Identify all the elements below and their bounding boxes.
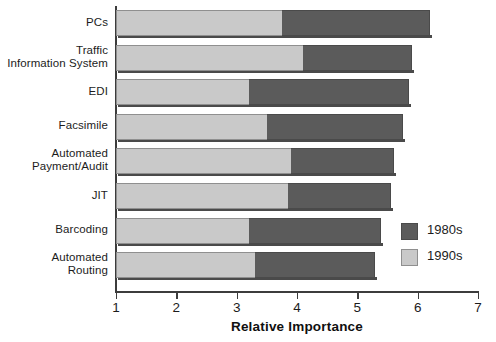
category-label: TrafficInformation System [0,44,108,70]
category-label: PCs [0,16,108,29]
bar-segment-1990s[interactable] [116,45,303,71]
plot-area [116,0,478,288]
category-label-line: Payment/Audit [0,160,108,173]
bar-segment-1990s[interactable] [116,252,255,278]
bar-segment-1990s[interactable] [116,218,249,244]
category-label: Barcoding [0,223,108,236]
category-label-line: Routing [0,264,108,277]
category-label-line: Facsimile [0,119,108,132]
x-axis-tick [418,292,419,299]
bar-group [116,79,409,105]
x-axis-tick [116,292,117,299]
legend-swatch-1990s-icon [401,249,418,266]
x-axis-title: Relative Importance [116,319,478,334]
category-label: AutomatedRouting [0,251,108,277]
category-label-line: JIT [0,189,108,202]
bar-segment-1990s[interactable] [116,10,282,36]
category-label: Facsimile [0,119,108,132]
x-axis-tick-label: 4 [284,300,310,315]
x-axis-tick [237,292,238,299]
x-axis-tick-label: 1 [103,300,129,315]
category-label-line: Automated [0,251,108,264]
x-axis-tick-label: 6 [405,300,431,315]
legend-label-1990s: 1990s [427,248,462,263]
bar-group [116,114,403,140]
category-label-line: EDI [0,85,108,98]
category-label: JIT [0,189,108,202]
bar-group [116,218,381,244]
bar-group [116,45,412,71]
category-label: EDI [0,85,108,98]
x-axis-tick [297,292,298,299]
x-axis-tick [357,292,358,299]
x-axis-tick-label: 7 [465,300,491,315]
category-label-line: Information System [0,57,108,70]
category-label-line: Traffic [0,44,108,57]
bar-segment-1990s[interactable] [116,114,267,140]
bar-group [116,10,430,36]
bar-segment-1990s[interactable] [116,79,249,105]
x-axis-tick [478,292,479,299]
x-axis-tick-label: 2 [163,300,189,315]
bar-segment-1990s[interactable] [116,148,291,174]
category-axis-labels: PCsTrafficInformation SystemEDIFacsimile… [0,0,112,288]
category-label: AutomatedPayment/Audit [0,147,108,173]
x-axis-tick [176,292,177,299]
bar-group [116,183,391,209]
x-axis-tick-label: 5 [344,300,370,315]
category-label-line: Automated [0,147,108,160]
bar-group [116,148,394,174]
legend-label-1980s: 1980s [427,222,462,237]
legend-swatch-1980s-icon [401,223,418,240]
category-label-line: Barcoding [0,223,108,236]
bar-segment-1990s[interactable] [116,183,288,209]
category-label-line: PCs [0,16,108,29]
x-axis-tick-label: 3 [224,300,250,315]
bar-group [116,252,375,278]
relative-importance-bar-chart: PCsTrafficInformation SystemEDIFacsimile… [0,0,496,342]
